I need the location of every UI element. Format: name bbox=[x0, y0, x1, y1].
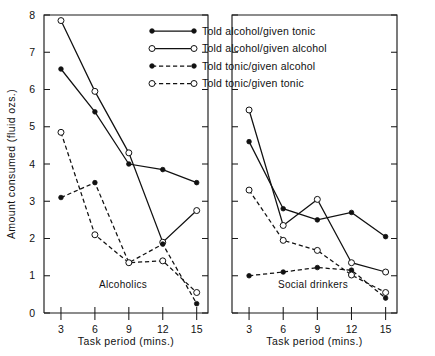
y-tick-label: 2 bbox=[29, 232, 35, 244]
data-point bbox=[383, 290, 389, 296]
y-tick-label: 3 bbox=[29, 195, 35, 207]
y-tick-label: 5 bbox=[29, 120, 35, 132]
data-point bbox=[281, 206, 286, 211]
y-tick-label: 7 bbox=[29, 46, 35, 58]
data-point bbox=[348, 272, 354, 278]
data-point bbox=[281, 270, 286, 275]
legend-marker bbox=[149, 81, 155, 87]
data-point bbox=[280, 222, 286, 228]
legend-marker bbox=[150, 64, 155, 69]
data-point bbox=[58, 18, 64, 24]
data-point bbox=[247, 273, 252, 278]
legend-marker bbox=[191, 46, 197, 52]
data-point bbox=[315, 265, 320, 270]
series-line-1 bbox=[61, 21, 197, 243]
x-axis-title: Task period (mins.) bbox=[78, 335, 174, 347]
data-point bbox=[349, 210, 354, 215]
legend: Told alcohol/given tonicTold alcohol/giv… bbox=[149, 25, 327, 90]
y-tick-label: 4 bbox=[29, 158, 35, 170]
x-tick-label: 6 bbox=[280, 323, 286, 335]
legend-marker bbox=[149, 46, 155, 52]
legend-label: Told tonic/given tonic bbox=[202, 77, 304, 89]
y-axis-title: Amount consumed (fluid ozs.) bbox=[5, 89, 17, 239]
legend-label: Told alcohol/given alcohol bbox=[202, 42, 327, 54]
data-point bbox=[314, 247, 320, 253]
chart-canvas: 0123456783691215AlcoholicsTask period (m… bbox=[0, 0, 435, 356]
legend-marker bbox=[191, 81, 197, 87]
panel-alcoholics: 0123456783691215AlcoholicsTask period (m… bbox=[29, 9, 208, 347]
data-point bbox=[280, 237, 286, 243]
data-point bbox=[93, 110, 98, 115]
data-point bbox=[126, 150, 132, 156]
x-tick-label: 15 bbox=[191, 323, 203, 335]
data-point bbox=[383, 234, 388, 239]
x-tick-label: 15 bbox=[380, 323, 392, 335]
legend-marker bbox=[150, 29, 155, 34]
data-point bbox=[93, 180, 98, 185]
x-tick-label: 6 bbox=[92, 323, 98, 335]
data-point bbox=[127, 162, 132, 167]
data-point bbox=[194, 301, 199, 306]
y-tick-label: 8 bbox=[29, 9, 35, 21]
data-point bbox=[194, 208, 200, 214]
data-point bbox=[383, 296, 388, 301]
legend-item-3[interactable]: Told tonic/given tonic bbox=[149, 77, 304, 89]
data-point bbox=[194, 180, 199, 185]
legend-marker bbox=[192, 29, 197, 34]
data-point bbox=[314, 196, 320, 202]
x-tick-label: 3 bbox=[246, 323, 252, 335]
series-line-3 bbox=[249, 190, 386, 292]
data-point bbox=[194, 290, 200, 296]
panel-label: Alcoholics bbox=[99, 279, 147, 290]
data-point bbox=[59, 195, 64, 200]
data-point bbox=[383, 269, 389, 275]
data-point bbox=[126, 260, 132, 266]
y-tick-label: 1 bbox=[29, 269, 35, 281]
data-point bbox=[92, 232, 98, 238]
x-tick-label: 9 bbox=[126, 323, 132, 335]
data-point bbox=[247, 139, 252, 144]
data-point bbox=[246, 187, 252, 193]
legend-item-0[interactable]: Told alcohol/given tonic bbox=[150, 25, 316, 37]
data-point bbox=[160, 258, 166, 264]
data-point bbox=[92, 88, 98, 94]
data-point bbox=[160, 242, 165, 247]
legend-label: Told tonic/given alcohol bbox=[202, 60, 315, 72]
data-point bbox=[348, 260, 354, 266]
x-tick-label: 9 bbox=[314, 323, 320, 335]
x-tick-label: 12 bbox=[157, 323, 169, 335]
x-tick-label: 3 bbox=[58, 323, 64, 335]
x-tick-label: 12 bbox=[346, 323, 358, 335]
y-tick-label: 6 bbox=[29, 83, 35, 95]
panel-frame bbox=[44, 15, 208, 313]
data-point bbox=[59, 67, 64, 72]
x-axis-title: Task period (mins.) bbox=[266, 335, 362, 347]
chart-figure: 0123456783691215AlcoholicsTask period (m… bbox=[0, 0, 435, 356]
legend-marker bbox=[192, 64, 197, 69]
legend-label: Told alcohol/given tonic bbox=[202, 25, 315, 37]
legend-item-1[interactable]: Told alcohol/given alcohol bbox=[149, 42, 327, 54]
y-tick-label: 0 bbox=[29, 307, 35, 319]
data-point bbox=[160, 167, 165, 172]
data-point bbox=[58, 129, 64, 135]
data-point bbox=[315, 218, 320, 223]
legend-item-2[interactable]: Told tonic/given alcohol bbox=[150, 60, 316, 72]
data-point bbox=[246, 107, 252, 113]
panel-label: Social drinkers bbox=[278, 279, 348, 290]
